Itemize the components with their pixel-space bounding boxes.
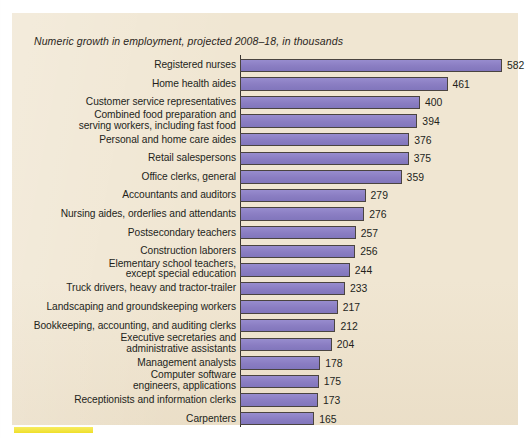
bar-value-label: 175 <box>319 376 341 387</box>
chart-row: Postsecondary teachers257 <box>24 223 526 242</box>
bar-value-label: 204 <box>332 339 354 350</box>
chart-row: Truck drivers, heavy and tractor-trailer… <box>24 279 526 298</box>
chart-row: Accountants and auditors279 <box>24 186 526 205</box>
bar <box>240 170 402 183</box>
bar <box>240 96 420 109</box>
bar-fill <box>240 338 332 351</box>
bar-fill <box>240 319 335 332</box>
chart-row: Personal and home care aides376 <box>24 130 526 149</box>
bar <box>240 338 332 351</box>
plot-area: Registered nurses582Home health aides461… <box>24 55 526 433</box>
category-label: Receptionists and information clerks <box>74 395 236 406</box>
chart-row: Executive secretaries and administrative… <box>24 335 526 354</box>
bar-value-label: 165 <box>314 413 336 424</box>
bar <box>240 412 314 425</box>
bar-fill <box>240 245 355 258</box>
category-label: Carpenters <box>186 413 236 424</box>
category-label: Management analysts <box>137 358 236 369</box>
highlight-swatch <box>14 427 93 433</box>
bar-fill <box>240 114 417 127</box>
bar-value-label: 217 <box>338 302 360 313</box>
bar-fill <box>240 152 409 165</box>
category-label: Personal and home care aides <box>99 134 236 145</box>
bar <box>240 59 502 72</box>
bar <box>240 375 319 388</box>
bar <box>240 152 409 165</box>
bar-value-label: 376 <box>409 134 431 145</box>
chart-row: Bookkeeping, accounting, and auditing cl… <box>24 316 526 335</box>
bar-fill <box>240 77 448 90</box>
bar-value-label: 233 <box>345 283 367 294</box>
chart-row: Elementary school teachers, except speci… <box>24 261 526 280</box>
category-label: Executive secretaries and administrative… <box>121 334 236 355</box>
chart-row: Retail salespersons375 <box>24 149 526 168</box>
bar-value-label: 279 <box>366 190 388 201</box>
category-label: Truck drivers, heavy and tractor-trailer <box>66 283 236 294</box>
chart-row: Landscaping and groundskeeping workers21… <box>24 298 526 317</box>
chart-row: Nursing aides, orderlies and attendants2… <box>24 205 526 224</box>
chart-row: Home health aides461 <box>24 75 526 94</box>
bar <box>240 319 335 332</box>
bar-value-label: 461 <box>448 78 470 89</box>
bar-value-label: 359 <box>402 171 424 182</box>
category-label: Bookkeeping, accounting, and auditing cl… <box>34 320 236 331</box>
bar-value-label: 244 <box>350 264 372 275</box>
category-label: Computer software engineers, application… <box>133 371 236 392</box>
bar-fill <box>240 300 338 313</box>
category-label: Combined food preparation and serving wo… <box>79 111 236 132</box>
category-label: Accountants and auditors <box>122 190 236 201</box>
bar-value-label: 375 <box>409 153 431 164</box>
chart-row: Management analysts178 <box>24 354 526 373</box>
category-label: Retail salespersons <box>148 153 236 164</box>
bar-fill <box>240 282 345 295</box>
bar-value-label: 257 <box>356 227 378 238</box>
bar-fill <box>240 412 314 425</box>
chart-row: Receptionists and information clerks173 <box>24 391 526 410</box>
chart-row: Combined food preparation and serving wo… <box>24 112 526 131</box>
bar <box>240 226 356 239</box>
category-label: Postsecondary teachers <box>128 227 236 238</box>
chart-panel: Numeric growth in employment, projected … <box>12 13 518 425</box>
bar-value-label: 276 <box>364 209 386 220</box>
bar-value-label: 256 <box>355 246 377 257</box>
chart-row: Registered nurses582 <box>24 56 526 75</box>
bar-fill <box>240 226 356 239</box>
chart-row: Carpenters165 <box>24 409 526 428</box>
category-label: Registered nurses <box>154 60 236 71</box>
bar <box>240 393 318 406</box>
chart-row: Computer software engineers, application… <box>24 372 526 391</box>
bar-fill <box>240 96 420 109</box>
bar-fill <box>240 133 409 146</box>
bar <box>240 282 345 295</box>
bar-fill <box>240 393 318 406</box>
chart-row: Office clerks, general359 <box>24 168 526 187</box>
category-label: Customer service representatives <box>86 97 236 108</box>
bar-fill <box>240 189 366 202</box>
bar-fill <box>240 263 350 276</box>
bar <box>240 300 338 313</box>
category-label: Elementary school teachers, except speci… <box>109 259 236 280</box>
bar-fill <box>240 59 502 72</box>
bar <box>240 77 448 90</box>
bar-value-label: 582 <box>502 60 524 71</box>
bar <box>240 263 350 276</box>
category-label: Nursing aides, orderlies and attendants <box>61 209 236 220</box>
bar-value-label: 212 <box>335 320 357 331</box>
category-label: Home health aides <box>152 79 236 90</box>
category-label: Landscaping and groundskeeping workers <box>46 302 236 313</box>
bar-value-label: 173 <box>318 395 340 406</box>
bar <box>240 114 417 127</box>
bar <box>240 207 364 220</box>
category-label: Office clerks, general <box>142 172 236 183</box>
chart-row: Construction laborers256 <box>24 242 526 261</box>
bar-value-label: 400 <box>420 97 442 108</box>
category-label: Construction laborers <box>140 246 236 257</box>
bar-fill <box>240 170 402 183</box>
bar-fill <box>240 356 320 369</box>
chart-title: Numeric growth in employment, projected … <box>34 35 343 47</box>
bar <box>240 245 355 258</box>
bar-value-label: 178 <box>320 357 342 368</box>
bar <box>240 133 409 146</box>
bar <box>240 189 366 202</box>
bar <box>240 356 320 369</box>
